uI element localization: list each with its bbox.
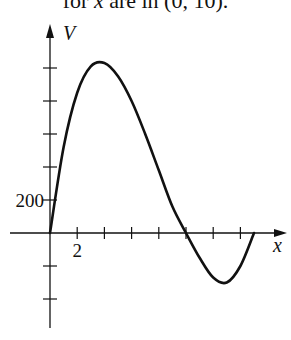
x-axis-label: x [272,234,282,256]
axes [10,24,287,328]
chart: V x 2200 [0,0,291,340]
y-axis-label: V [63,22,78,44]
y-tick-label: 200 [16,190,45,211]
x-tick-label: 2 [72,240,82,261]
y-axis-arrow-icon [46,24,54,38]
tick-labels: 2200 [16,190,82,261]
